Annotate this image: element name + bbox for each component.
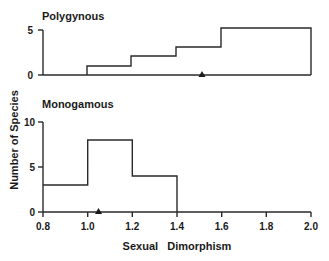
xtick-label-1.2: 1.2 <box>125 221 139 232</box>
monogamous-panel: Monogamous 10 5 0 0.8 1.0 1.2 1.4 1.6 1.… <box>24 98 319 232</box>
monogamous-mean-triangle-icon <box>95 208 102 214</box>
polygynous-mean-triangle-icon <box>199 71 206 77</box>
monogamous-title: Monogamous <box>42 98 114 110</box>
monogamous-histogram <box>43 140 177 212</box>
xtick-label-1.6: 1.6 <box>215 221 229 232</box>
polygynous-ytick-label-0: 0 <box>27 70 33 81</box>
xtick-label-2.0: 2.0 <box>304 221 318 232</box>
polygynous-title: Polygynous <box>42 10 104 22</box>
monogamous-ytick-label-5: 5 <box>29 162 35 173</box>
x-ticks <box>43 212 311 217</box>
polygynous-histogram <box>87 28 311 75</box>
xtick-label-1.4: 1.4 <box>170 221 184 232</box>
xtick-label-1.8: 1.8 <box>259 221 273 232</box>
y-axis-label: Number of Species <box>8 90 20 190</box>
xtick-label-0.8: 0.8 <box>36 221 50 232</box>
polygynous-ytick-label-5: 5 <box>27 25 33 36</box>
x-axis-label: Sexual Dimorphism <box>123 240 232 252</box>
polygynous-panel: Polygynous 5 0 <box>27 10 311 81</box>
xtick-label-1.0: 1.0 <box>81 221 95 232</box>
sexual-dimorphism-figure: Polygynous 5 0 Monogamous 10 5 0 <box>0 0 329 261</box>
monogamous-ytick-label-0: 0 <box>29 207 35 218</box>
monogamous-ytick-label-10: 10 <box>24 117 36 128</box>
